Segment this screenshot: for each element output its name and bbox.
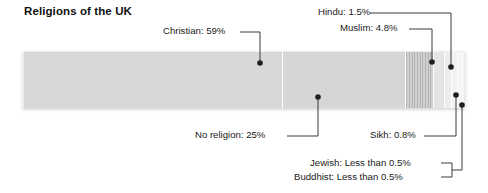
marker-muslim xyxy=(429,59,435,65)
leader-line-sikh xyxy=(424,92,459,136)
marker-hindu xyxy=(448,64,454,70)
marker-sikh xyxy=(453,92,459,98)
label-sikh: Sikh: 0.8% xyxy=(370,129,416,140)
label-no-religion: No religion: 25% xyxy=(195,129,265,140)
label-christian: Christian: 59% xyxy=(163,25,225,36)
marker-christian xyxy=(257,60,263,66)
label-muslim: Muslim: 4.8% xyxy=(340,22,398,33)
leader-lines-group xyxy=(0,0,488,193)
label-hindu: Hindu: 1.5% xyxy=(318,6,370,17)
leader-line-jewish-buddhist xyxy=(441,102,465,177)
leader-line-no-religion xyxy=(287,94,321,136)
marker-no-religion xyxy=(315,94,321,100)
label-buddhist: Buddhist: Less than 0.5% xyxy=(294,171,403,182)
label-jewish: Jewish: Less than 0.5% xyxy=(310,157,411,168)
religions-of-the-uk-chart: Religions of the UK xyxy=(0,0,488,193)
marker-jewish-buddhist xyxy=(459,102,465,108)
leader-line-muslim xyxy=(409,29,435,65)
leader-line-christian xyxy=(240,32,263,66)
